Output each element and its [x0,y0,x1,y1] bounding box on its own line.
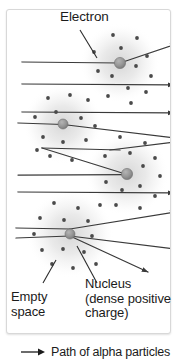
legend-label: Path of alpha particles [51,345,170,359]
right-arrow-icon [20,347,46,357]
legend: Path of alpha particles [20,343,180,361]
scattering-figure: Electron Empty space Nucleus (dense posi… [0,0,184,364]
label-electron: Electron [60,9,109,24]
label-empty-space: Empty space [11,290,47,319]
label-nucleus: Nucleus (dense positive charge) [85,277,171,321]
